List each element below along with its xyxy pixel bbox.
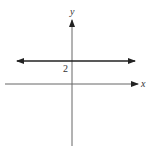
- y-axis-label: y: [69, 6, 75, 17]
- y-intercept-label: 2: [63, 63, 68, 74]
- coordinate-plane: x y 2: [0, 0, 149, 150]
- x-axis-label: x: [140, 78, 146, 89]
